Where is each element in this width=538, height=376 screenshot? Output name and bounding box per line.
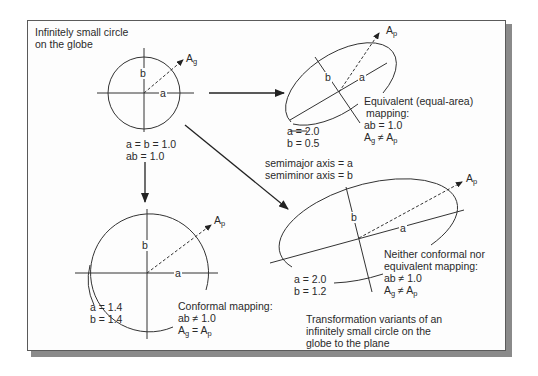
- neither-axis-b-label: b: [350, 212, 358, 223]
- equivalent-axis-a-label: a: [358, 72, 366, 83]
- neither-vector-label: Ap: [466, 172, 477, 188]
- caption-line3: globe to the plane: [306, 337, 390, 349]
- globe-vector-label: Ag: [186, 52, 197, 68]
- equivalent-desc-line2: mapping:: [366, 107, 409, 119]
- legend-semiminor: semiminor axis = b: [265, 169, 353, 181]
- conformal-vector-label: Ap: [214, 214, 225, 230]
- equivalent-values-line2: b = 0.5: [287, 137, 319, 149]
- neither-desc-line3: ab ≠ 1.0: [384, 272, 422, 284]
- globe-circle-shape: [97, 48, 194, 132]
- conformal-relation: Ag = Ap: [178, 324, 212, 340]
- legend-semimajor: semimajor axis = a: [265, 157, 353, 169]
- equivalent-axis-b-label: b: [324, 72, 332, 83]
- equivalent-vector-label: Ap: [386, 24, 397, 40]
- neither-desc-line2: equivalent mapping:: [384, 260, 478, 272]
- globe-axis-a-label: a: [159, 88, 167, 99]
- globe-title-line1: Infinitely small circle: [35, 26, 128, 38]
- conformal-values-line2: b = 1.4: [90, 313, 122, 325]
- neither-desc-line1: Neither conformal nor: [384, 248, 485, 260]
- equivalent-relation: Ag ≠ Ap: [364, 131, 397, 147]
- neither-relation: Ag ≠ Ap: [384, 284, 417, 300]
- equivalent-desc-line1: Equivalent (equal-area): [364, 95, 473, 107]
- globe-values-line1: a = b = 1.0: [126, 138, 176, 150]
- equivalent-desc-line3: ab = 1.0: [364, 119, 402, 131]
- globe-title-line2: on the globe: [35, 38, 93, 50]
- neither-axis-a-label: a: [399, 223, 407, 234]
- conformal-desc-line2: ab ≠ 1.0: [178, 312, 216, 324]
- conformal-desc-line1: Conformal mapping:: [178, 300, 273, 312]
- conformal-axis-a-label: a: [174, 268, 182, 279]
- caption-line2: infinitely small circle on the: [306, 325, 431, 337]
- neither-values-line2: b = 1.2: [294, 285, 326, 297]
- globe-values-line2: ab = 1.0: [126, 150, 164, 162]
- conformal-axis-b-label: b: [141, 240, 149, 251]
- neither-values-line1: a = 2.0: [294, 273, 326, 285]
- diagram-canvas: [0, 0, 538, 376]
- equivalent-values-line1: a = 2.0: [287, 125, 319, 137]
- globe-axis-b-label: b: [139, 68, 147, 79]
- conformal-values-line1: a = 1.4: [90, 301, 122, 313]
- caption-line1: Transformation variants of an: [306, 313, 442, 325]
